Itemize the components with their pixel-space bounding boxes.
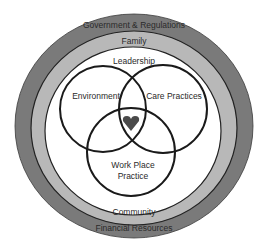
- label-environment: Environment: [72, 91, 120, 101]
- label-community: Community: [113, 207, 157, 217]
- label-practice: Practice: [118, 171, 149, 181]
- label-leadership: Leadership: [113, 56, 155, 66]
- label-government-regulations: Government & Regulations: [83, 20, 185, 30]
- ring-leadership: [45, 47, 221, 215]
- nested-circles-diagram: Government & Regulations Family Leadersh…: [0, 0, 268, 249]
- label-care-practices: Care Practices: [146, 91, 202, 101]
- label-work-place: Work Place: [111, 160, 155, 170]
- label-financial-resources: Financial Resources: [95, 223, 172, 233]
- label-family: Family: [121, 36, 147, 46]
